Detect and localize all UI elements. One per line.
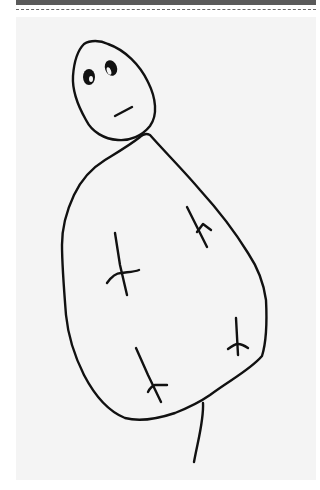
- leg: [194, 403, 203, 462]
- body-marks: [107, 207, 248, 402]
- right-eye: [103, 58, 120, 77]
- left-eye: [83, 69, 95, 85]
- mouth: [115, 107, 132, 116]
- figure-drawing: [0, 0, 320, 490]
- body: [62, 134, 267, 420]
- head: [73, 41, 155, 140]
